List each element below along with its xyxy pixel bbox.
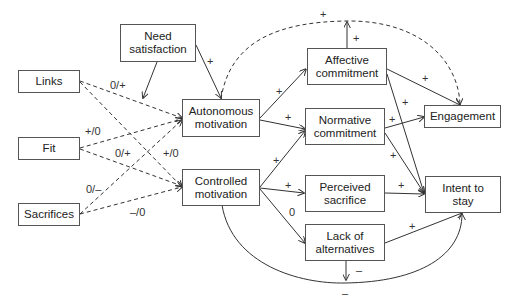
node-label-line: Need bbox=[129, 30, 187, 43]
node-label: Engagement bbox=[430, 110, 495, 123]
node-label-line: commitment bbox=[314, 127, 377, 140]
node-normative-commitment: Normativecommitment bbox=[305, 108, 385, 145]
node-engagement: Engagement bbox=[424, 105, 501, 128]
node-affective-commitment: Affectivecommitment bbox=[307, 48, 387, 85]
edge-label: –/0 bbox=[130, 207, 145, 218]
edge-need-moderation bbox=[143, 62, 157, 98]
edge-label: 0/+ bbox=[110, 80, 126, 91]
edge-label: + bbox=[276, 86, 282, 97]
node-label-line: alternatives bbox=[316, 243, 375, 256]
edge-label: 0/+ bbox=[115, 148, 131, 159]
node-perceived-sacrifice: Perceivedsacrifice bbox=[305, 175, 385, 212]
edge-label: + bbox=[398, 180, 404, 191]
node-label-line: Lack of bbox=[316, 230, 375, 243]
edge-label: – bbox=[356, 265, 362, 276]
node-label-line: satisfaction bbox=[129, 43, 187, 56]
edge-label: 0 bbox=[289, 207, 295, 218]
edge-label: + bbox=[353, 33, 359, 44]
edge-controlled-to-lack bbox=[260, 189, 305, 243]
edge-normative-to-intent bbox=[385, 133, 424, 193]
node-autonomous-motivation: Autonomousmotivation bbox=[182, 99, 260, 137]
edge-autonomous-to-normative bbox=[260, 120, 305, 129]
node-controlled-motivation: Controlledmotivation bbox=[182, 169, 260, 206]
node-sacrifices: Sacrifices bbox=[18, 203, 80, 226]
node-label-line: commitment bbox=[316, 67, 379, 80]
edge-label: – bbox=[342, 288, 348, 299]
node-label-line: Normative bbox=[314, 114, 377, 127]
edge-label: +/0 bbox=[163, 148, 179, 159]
edge-perceived-to-intent bbox=[385, 193, 424, 194]
edge-label: + bbox=[409, 221, 415, 232]
node-label-line: Autonomous bbox=[189, 105, 254, 118]
edge-controlled-to-perceived bbox=[260, 188, 304, 193]
edge-label: +/0 bbox=[85, 126, 101, 137]
node-label-line: Affective bbox=[316, 54, 379, 67]
node-label: Fit bbox=[43, 142, 56, 155]
edge-label: + bbox=[422, 73, 428, 84]
edge-label: + bbox=[207, 56, 213, 67]
edge-label: + bbox=[389, 114, 395, 125]
node-intent-to-stay: Intent tostay bbox=[425, 176, 501, 213]
node-label-line: Perceived bbox=[319, 181, 370, 194]
node-need-satisfaction: Needsatisfaction bbox=[120, 24, 196, 62]
edge-label: + bbox=[285, 112, 291, 123]
edge-links-to-autonomous bbox=[80, 81, 182, 118]
node-label-line: Controlled bbox=[195, 175, 247, 188]
node-label-line: motivation bbox=[189, 118, 254, 131]
node-lack-of-alternatives: Lack ofalternatives bbox=[305, 224, 385, 261]
edge-label: 0/– bbox=[86, 184, 101, 195]
edge-label: + bbox=[273, 155, 279, 166]
node-links: Links bbox=[18, 70, 80, 93]
edge-label: + bbox=[285, 180, 291, 191]
path-model-diagram: Needsatisfaction Links Fit Sacrifices Au… bbox=[0, 0, 519, 306]
node-label-line: sacrifice bbox=[319, 194, 370, 207]
edge-label: + bbox=[390, 150, 396, 161]
edge-affective-to-intent bbox=[387, 74, 424, 193]
node-label: Sacrifices bbox=[24, 208, 74, 221]
edge-lack-to-intent bbox=[385, 213, 462, 243]
node-label-line: Intent to bbox=[442, 182, 484, 195]
edge-controlled-to-normative bbox=[260, 131, 305, 187]
edge-label: + bbox=[320, 9, 326, 20]
node-label-line: motivation bbox=[195, 188, 247, 201]
edge-label: + bbox=[402, 97, 408, 108]
edge-need-to-autonomous bbox=[196, 45, 221, 98]
node-label-line: stay bbox=[442, 195, 484, 208]
node-fit: Fit bbox=[18, 137, 80, 160]
edge-autonomous-to-affective bbox=[260, 69, 306, 118]
node-label: Links bbox=[36, 75, 63, 88]
